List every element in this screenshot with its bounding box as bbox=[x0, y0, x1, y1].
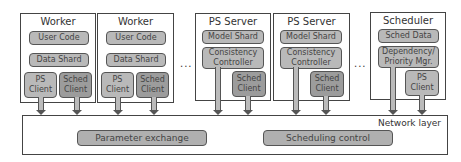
worker-title: Worker bbox=[98, 16, 173, 27]
model-shard: Model Shard bbox=[202, 30, 264, 44]
ps-client: PS Client bbox=[24, 72, 57, 98]
scheduler-node: Scheduler Sched Data Dependency/ Priorit… bbox=[370, 12, 446, 100]
down-arrow-icon bbox=[291, 67, 301, 115]
sched-client: Sched Client bbox=[232, 71, 266, 97]
scheduling-control: Scheduling control bbox=[263, 130, 393, 146]
dependency-priority-manager: Dependency/ Priority Mgr. bbox=[378, 46, 439, 68]
down-arrow-icon bbox=[388, 67, 398, 115]
down-arrow-icon bbox=[149, 97, 159, 115]
ellipsis: ... bbox=[354, 58, 367, 69]
sched-data: Sched Data bbox=[378, 29, 439, 43]
worker-node-2: Worker User Code Data Shard PS Client Sc… bbox=[97, 13, 174, 103]
scheduler-title: Scheduler bbox=[371, 15, 445, 26]
model-shard: Model Shard bbox=[280, 30, 342, 44]
ellipsis: ... bbox=[180, 58, 193, 69]
worker-node-1: Worker User Code Data Shard PS Client Sc… bbox=[20, 13, 96, 103]
worker-title: Worker bbox=[21, 16, 95, 27]
down-arrow-icon bbox=[113, 97, 123, 115]
sched-client: Sched Client bbox=[310, 71, 344, 97]
sched-client: Sched Client bbox=[136, 72, 169, 98]
data-shard: Data Shard bbox=[106, 53, 166, 67]
ps-server-node-1: PS Server Model Shard Consistency Contro… bbox=[195, 13, 271, 101]
data-shard: Data Shard bbox=[29, 53, 89, 67]
ps-server-title: PS Server bbox=[274, 16, 349, 27]
parameter-exchange: Parameter exchange bbox=[77, 130, 207, 146]
down-arrow-icon bbox=[72, 97, 82, 115]
sched-client: Sched Client bbox=[59, 72, 92, 98]
down-arrow-icon bbox=[36, 97, 46, 115]
network-layer-label: Network layer bbox=[378, 118, 441, 128]
ps-server-title: PS Server bbox=[196, 16, 270, 27]
network-layer: Network layer Parameter exchange Schedul… bbox=[22, 115, 448, 155]
user-code: User Code bbox=[29, 31, 89, 45]
consistency-controller: Consistency Controller bbox=[202, 47, 264, 69]
ps-client: PS Client bbox=[101, 72, 134, 98]
user-code: User Code bbox=[106, 31, 166, 45]
down-arrow-icon bbox=[321, 96, 331, 115]
down-arrow-icon bbox=[417, 95, 427, 115]
down-arrow-icon bbox=[213, 67, 223, 115]
ps-client: PS Client bbox=[405, 70, 439, 96]
down-arrow-icon bbox=[243, 96, 253, 115]
ps-server-node-2: PS Server Model Shard Consistency Contro… bbox=[273, 13, 350, 101]
consistency-controller: Consistency Controller bbox=[280, 47, 342, 69]
